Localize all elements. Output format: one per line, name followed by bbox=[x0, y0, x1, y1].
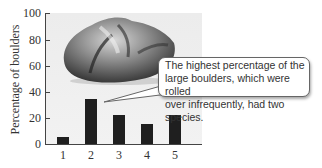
y-tick bbox=[45, 13, 50, 14]
x-tick-label: 3 bbox=[109, 148, 129, 163]
bar-3 bbox=[113, 115, 125, 144]
x-tick-label: 5 bbox=[165, 148, 185, 163]
y-tick bbox=[45, 144, 50, 145]
y-tick-label: 20 bbox=[14, 112, 41, 124]
y-tick-label: 60 bbox=[14, 60, 41, 72]
y-tick bbox=[45, 118, 50, 119]
callout-line: large boulders, which were rolled bbox=[165, 72, 309, 98]
x-tick-label: 1 bbox=[53, 148, 73, 163]
y-tick-label: 40 bbox=[14, 86, 41, 98]
bar-1 bbox=[57, 137, 69, 144]
annotation-callout: The highest percentage of the large boul… bbox=[158, 57, 310, 97]
y-tick-label: 80 bbox=[14, 34, 41, 46]
callout-line: The highest percentage of the bbox=[165, 59, 309, 72]
y-tick bbox=[45, 92, 50, 93]
y-tick bbox=[45, 66, 50, 67]
bar-2 bbox=[85, 99, 97, 144]
y-tick-label: 0 bbox=[14, 138, 41, 150]
x-tick-label: 2 bbox=[81, 148, 101, 163]
callout-line: over infrequently, had two species. bbox=[165, 98, 309, 124]
y-axis-line bbox=[45, 13, 46, 145]
x-tick-label: 4 bbox=[137, 148, 157, 163]
bar-4 bbox=[141, 124, 153, 144]
y-tick bbox=[45, 40, 50, 41]
y-tick-label: 100 bbox=[14, 7, 41, 19]
x-axis-line bbox=[45, 144, 202, 145]
